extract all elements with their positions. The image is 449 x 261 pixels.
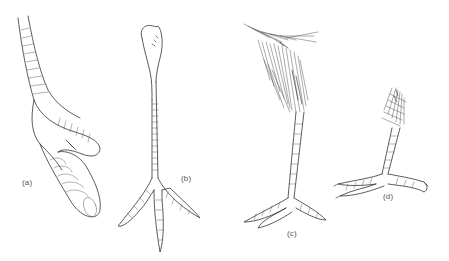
panel-b-label: (b) — [181, 174, 191, 183]
illustration-canvas — [0, 0, 449, 261]
panel-c-leg-drawing — [244, 24, 326, 228]
bird-feet-illustration: (a) (b) (c) (d) — [0, 0, 449, 261]
panel-a-foot-drawing — [18, 16, 100, 218]
panel-d-label: (d) — [383, 192, 393, 201]
panel-c-label: (c) — [287, 229, 297, 238]
panel-a-label: (a) — [22, 178, 32, 187]
panel-d-leg-drawing — [334, 88, 428, 198]
panel-b-foot-drawing — [118, 25, 200, 252]
